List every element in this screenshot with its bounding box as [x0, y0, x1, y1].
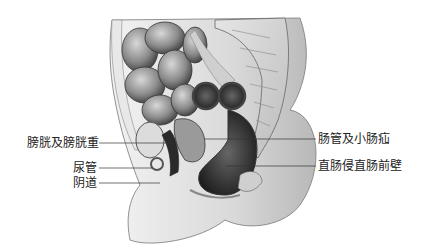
pelvis-illustration — [0, 0, 427, 248]
label-vagina: 阴道 — [73, 176, 97, 190]
anatomy-figure: 膀胱及膀胱重 尿管 阴道 肠管及小肠疝 直肠侵直肠前壁 — [0, 0, 427, 248]
label-rectum: 直肠侵直肠前壁 — [318, 159, 402, 173]
bladder — [136, 122, 164, 158]
label-bowel: 肠管及小肠疝 — [318, 132, 390, 146]
label-bladder: 膀胱及膀胱重 — [27, 136, 99, 150]
label-urethra: 尿管 — [73, 161, 97, 175]
